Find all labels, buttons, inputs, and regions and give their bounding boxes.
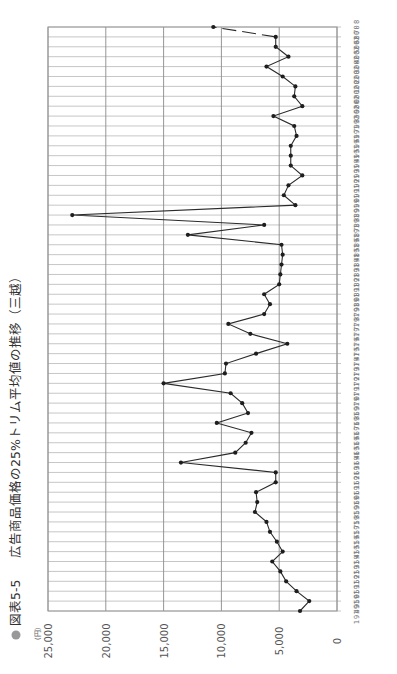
data-point: 1996: 4000 (289, 144, 293, 148)
data-point: 1977: 7500 (248, 332, 252, 336)
grid (48, 27, 341, 611)
data-point: 1991: 4600 (282, 193, 286, 197)
data-point: 1955: 4700 (281, 550, 285, 554)
data-point: 2004: 6100 (264, 64, 268, 68)
data-point: 1984: 4800 (279, 262, 283, 266)
data-point: 1981: 6300 (262, 292, 266, 296)
data-point: 2000: 3000 (300, 104, 304, 108)
data-point: 1980: 5800 (268, 302, 272, 306)
data-point: 1968: 10400 (215, 421, 219, 425)
data-point: 1969: 7700 (246, 411, 250, 415)
data-point: 1958: 6100 (264, 520, 268, 524)
data-point: 1961: 7000 (254, 490, 258, 494)
data-point: 1983: 4900 (278, 272, 282, 276)
data-point: 1954: 5600 (270, 559, 274, 563)
value-tick-label: 15,000 (159, 624, 170, 659)
data-point: 1985: 4700 (281, 253, 285, 257)
data-point: 1993: 3000 (300, 173, 304, 177)
figure-title: 図表5-5 広告商品価格の25%トリム平均値の推移（三越） (8, 270, 23, 639)
data-point: 1952: 4400 (284, 579, 288, 583)
data-point: 1989: 22900 (70, 213, 74, 217)
data-point: 1967: 7400 (249, 431, 253, 435)
data-point: 1966: 7900 (244, 441, 248, 445)
value-tick-label: 5,000 (274, 627, 285, 656)
data-point: 1987: 12900 (186, 233, 190, 237)
data-point: 1997: 3500 (294, 134, 298, 138)
bullet-icon (12, 631, 21, 640)
data-point: 1975: 7000 (254, 352, 258, 356)
data-point: 1951: 3500 (294, 589, 298, 593)
data-point: 1974: 9600 (224, 361, 228, 365)
data-point: 1973: 9700 (223, 371, 227, 375)
data-point: 1976: 4300 (285, 342, 289, 346)
data-point: 1959: 7100 (253, 510, 257, 514)
plot-frame (48, 27, 337, 611)
data-point: 2005: 4200 (286, 55, 290, 59)
data-point: 1971: 9200 (229, 391, 233, 395)
data-point: 1998: 3700 (292, 124, 296, 128)
data-point: 1970: 8200 (240, 401, 244, 405)
value-tick-label: 25,000 (43, 624, 54, 659)
data-point: 1978: 9400 (226, 322, 230, 326)
data-point: 1988: 6300 (262, 223, 266, 227)
data-point: 1994: 4000 (289, 163, 293, 167)
figure-title-text: 広告商品価格の25%トリム平均値の推移（三越） (8, 270, 23, 558)
value-tick-label: 0 (332, 638, 343, 644)
figure-label: 図表5-5 (8, 580, 23, 626)
data-point: 2003: 4700 (281, 74, 285, 78)
value-axis-labels: 05,00010,00015,00020,00025,000 (43, 624, 343, 659)
data-point: 1965: 8800 (233, 451, 237, 455)
series-dashed-segment (213, 27, 275, 37)
data-point: 1957: 5800 (268, 530, 272, 534)
year-axis-labels: 1949195019511952195319541955195619571958… (353, 19, 361, 625)
data-point: 1999: 5500 (271, 114, 275, 118)
data-point: 1990: 3600 (293, 203, 297, 207)
value-tick-label: 10,000 (216, 624, 227, 659)
data-point: 2002: 3600 (293, 84, 297, 88)
year-tick-label: 2008 (353, 19, 361, 41)
data-point: 1964: 13500 (179, 460, 183, 464)
data-point: 1953: 4900 (278, 569, 282, 573)
value-tick-label: 20,000 (101, 624, 112, 659)
data-point: 1956: 5200 (275, 540, 279, 544)
data-point: 1962: 5300 (274, 480, 278, 484)
data-point: 2006: 5300 (274, 45, 278, 49)
data-point: 1979: 6300 (262, 312, 266, 316)
data-point: 1972: 15000 (162, 381, 166, 385)
data-point: 1995: 4000 (289, 154, 293, 158)
data-point: 1963: 5300 (274, 470, 278, 474)
trimmed-mean-price-chart: 図表5-5 広告商品価格の25%トリム平均値の推移（三越） 05,00010,0… (0, 0, 397, 674)
data-point: 1949: 3200 (298, 609, 302, 613)
data-point: 1950: 2400 (307, 599, 311, 603)
data-point: 1992: 4200 (286, 183, 290, 187)
unit-label: (円) (34, 627, 42, 640)
data-point: 2008: 10700 (211, 25, 215, 29)
data-point: 2001: 3700 (292, 94, 296, 98)
data-point: 2007: 5300 (274, 35, 278, 39)
data-series: 1949: 32001950: 24001951: 35001952: 4400… (70, 25, 311, 613)
data-point: 1982: 5000 (277, 282, 281, 286)
data-point: 1986: 4800 (279, 243, 283, 247)
data-point: 1960: 6900 (255, 500, 259, 504)
